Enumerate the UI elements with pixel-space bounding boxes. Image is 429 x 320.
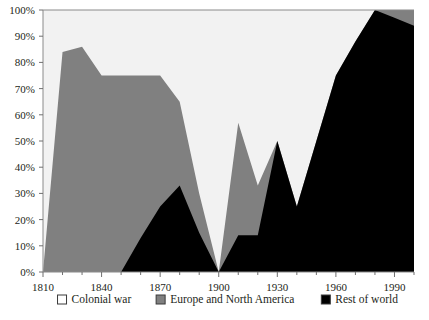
legend-label: Colonial war [72, 293, 132, 305]
legend-swatch [321, 295, 330, 304]
y-axis-tick-label: 10% [15, 240, 35, 252]
y-axis-tick-label: 20% [15, 214, 35, 226]
y-axis-tick-label: 70% [15, 83, 35, 95]
y-axis-tick-label: 30% [15, 187, 35, 199]
y-axis-tick-label: 90% [15, 30, 35, 42]
y-axis-tick-label: 100% [9, 4, 35, 16]
x-axis-tick-label: 1960 [325, 281, 348, 293]
y-axis-tick-label: 80% [15, 56, 35, 68]
x-axis-tick-label: 1840 [91, 281, 114, 293]
y-axis-tick-label: 40% [15, 161, 35, 173]
y-axis-tick-label: 60% [15, 109, 35, 121]
x-axis-tick-label: 1810 [32, 281, 55, 293]
stacked-area-chart: 0%10%20%30%40%50%60%70%80%90%100%1810184… [0, 0, 429, 320]
x-axis-tick-label: 1900 [208, 281, 231, 293]
y-axis-tick-label: 0% [20, 266, 35, 278]
legend-swatch [58, 295, 67, 304]
x-axis-tick-label: 1990 [383, 281, 406, 293]
chart-canvas: 0%10%20%30%40%50%60%70%80%90%100%1810184… [0, 0, 429, 320]
x-axis-tick-label: 1930 [266, 281, 289, 293]
legend-swatch [156, 295, 165, 304]
legend-label: Europe and North America [170, 293, 294, 306]
y-axis-tick-label: 50% [15, 135, 35, 147]
x-axis-tick-label: 1870 [149, 281, 172, 293]
legend-label: Rest of world [335, 293, 398, 305]
